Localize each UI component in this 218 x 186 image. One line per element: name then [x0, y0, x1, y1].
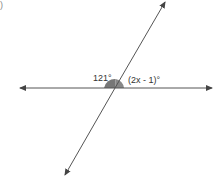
- intersecting-lines-figure: [0, 0, 218, 186]
- angle-label-121: 121°: [93, 73, 112, 83]
- angle-label-2x-minus-1: (2x - 1)°: [128, 75, 160, 85]
- diagram-canvas: ) 121° (2x - 1)°: [0, 0, 218, 186]
